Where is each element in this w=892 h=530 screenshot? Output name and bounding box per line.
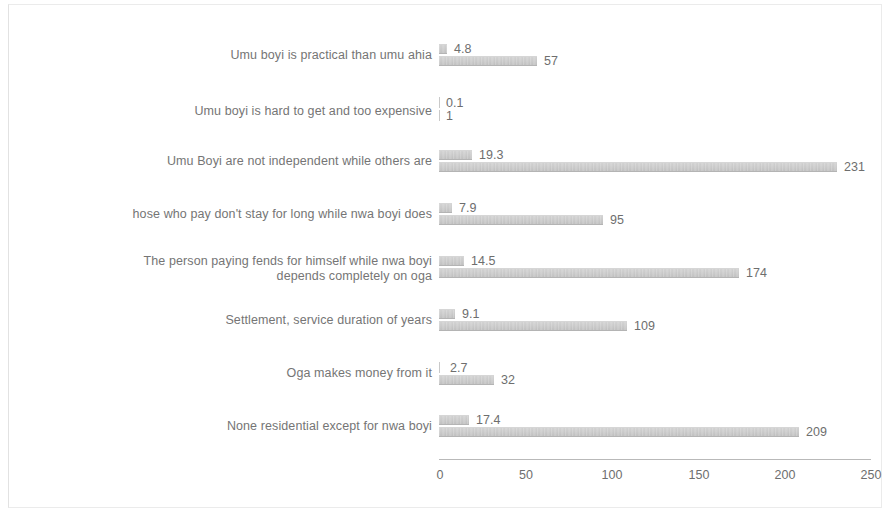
bar-value-count: 57 xyxy=(544,54,558,68)
category-label: None residential except for nwa boyi xyxy=(2,419,432,434)
bar-value-percent: 17.4 xyxy=(476,413,500,427)
x-tick-label: 150 xyxy=(689,468,710,482)
category-label: The person paying fends for himself whil… xyxy=(2,254,432,284)
bar-value-percent: 14.5 xyxy=(471,254,495,268)
bar-value-percent: 4.8 xyxy=(454,42,471,56)
chart-row: None residential except for nwa boyi 17.… xyxy=(0,409,892,461)
bar-group: 14.5 174 xyxy=(439,256,739,278)
bar-value-percent: 9.1 xyxy=(462,307,479,321)
bar-count: 109 xyxy=(439,321,627,331)
bar-percent: 14.5 xyxy=(439,256,464,266)
horizontal-bar-chart: Umu boyi is practical than umu ahia 4.8 … xyxy=(0,0,892,530)
bar-value-count: 231 xyxy=(844,160,865,174)
x-axis-tick-labels: 0 50 100 150 200 250 xyxy=(0,468,892,488)
bar-value-count: 174 xyxy=(746,266,767,280)
bar-percent: 9.1 xyxy=(439,309,455,319)
chart-row: Umu Boyi are not independent while other… xyxy=(0,144,892,196)
x-tick-label: 250 xyxy=(861,468,882,482)
bar-percent: 2.7 xyxy=(439,362,444,373)
category-label: Oga makes money from it xyxy=(2,366,432,381)
chart-row: Umu boyi is hard to get and too expensiv… xyxy=(0,91,892,143)
chart-row: Settlement, service duration of years 9.… xyxy=(0,303,892,355)
chart-row: hose who pay don't stay for long while n… xyxy=(0,197,892,249)
bar-group: 17.4 209 xyxy=(439,415,799,437)
chart-row: Oga makes money from it 2.7 32 xyxy=(0,356,892,408)
bar-count: 95 xyxy=(439,215,603,225)
bar-percent: 17.4 xyxy=(439,415,469,425)
bar-count: 231 xyxy=(439,162,837,172)
bar-value-percent: 2.7 xyxy=(450,361,467,375)
x-tick-label: 50 xyxy=(519,468,533,482)
bar-group: 7.9 95 xyxy=(439,203,603,225)
bar-value-count: 209 xyxy=(806,425,827,439)
bar-count: 32 xyxy=(439,375,494,385)
bar-group: 2.7 32 xyxy=(439,362,494,385)
bar-value-count: 32 xyxy=(501,373,515,387)
bar-count: 57 xyxy=(439,56,537,66)
bar-value-count: 109 xyxy=(634,319,655,333)
bar-value-percent: 19.3 xyxy=(479,148,503,162)
bar-percent: 4.8 xyxy=(439,44,447,54)
bar-value-count: 95 xyxy=(610,213,624,227)
x-axis-line xyxy=(439,459,871,460)
bar-group: 9.1 109 xyxy=(439,309,627,331)
bar-group: 19.3 231 xyxy=(439,150,837,172)
chart-row: The person paying fends for himself whil… xyxy=(0,250,892,302)
chart-row: Umu boyi is practical than umu ahia 4.8 … xyxy=(0,38,892,90)
x-tick-label: 200 xyxy=(775,468,796,482)
bar-value-percent: 0.1 xyxy=(446,96,463,110)
bar-percent: 19.3 xyxy=(439,150,472,160)
bar-value-percent: 7.9 xyxy=(459,201,476,215)
bar-value-count: 1 xyxy=(446,109,453,123)
category-label: Umu boyi is practical than umu ahia xyxy=(2,48,432,63)
bar-count: 174 xyxy=(439,268,739,278)
bar-group: 0.1 1 xyxy=(439,97,440,121)
category-label: Settlement, service duration of years xyxy=(2,313,432,328)
category-label: Umu boyi is hard to get and too expensiv… xyxy=(2,104,432,119)
bar-group: 4.8 57 xyxy=(439,44,537,66)
bar-percent: 7.9 xyxy=(439,203,452,213)
bar-count: 209 xyxy=(439,427,799,437)
category-label: Umu Boyi are not independent while other… xyxy=(2,154,432,169)
x-tick-label: 0 xyxy=(437,468,444,482)
bar-percent: 0.1 xyxy=(439,97,440,108)
x-tick-label: 100 xyxy=(602,468,623,482)
bar-count: 1 xyxy=(439,110,440,121)
category-label: hose who pay don't stay for long while n… xyxy=(0,207,432,222)
